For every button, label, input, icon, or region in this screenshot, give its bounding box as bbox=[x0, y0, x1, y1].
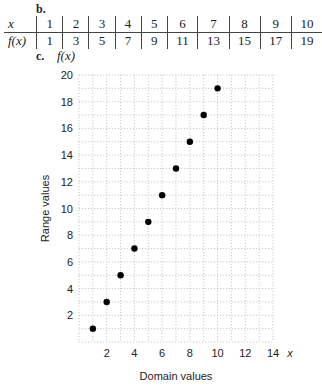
x-tick-label: 6 bbox=[159, 347, 165, 359]
y-tick-label: 4 bbox=[67, 283, 73, 295]
data-point bbox=[145, 219, 151, 225]
y-tick-label: 18 bbox=[61, 96, 73, 108]
x-tick-label: 10 bbox=[211, 347, 223, 359]
x-tick-label: 12 bbox=[239, 347, 251, 359]
y-tick-label: 12 bbox=[61, 176, 73, 188]
data-point bbox=[173, 165, 179, 171]
data-point bbox=[187, 139, 193, 145]
x-tick-label: 8 bbox=[187, 347, 193, 359]
scatter-chart: 24681012142468101214161820xDomain values… bbox=[0, 0, 322, 387]
y-tick-label: 20 bbox=[61, 69, 73, 81]
x-tick-label: 4 bbox=[131, 347, 137, 359]
y-tick-label: 8 bbox=[67, 229, 73, 241]
x-axis-title: Domain values bbox=[140, 370, 213, 382]
x-tick-label: 14 bbox=[267, 347, 279, 359]
data-point bbox=[214, 85, 220, 91]
x-axis-symbol: x bbox=[286, 347, 293, 359]
data-point bbox=[104, 299, 110, 305]
x-tick-label: 2 bbox=[104, 347, 110, 359]
y-tick-label: 10 bbox=[61, 203, 73, 215]
y-tick-label: 6 bbox=[67, 256, 73, 268]
data-point bbox=[131, 245, 137, 251]
data-point bbox=[159, 192, 165, 198]
data-point bbox=[117, 272, 123, 278]
data-point bbox=[90, 325, 96, 331]
data-point bbox=[201, 112, 207, 118]
y-tick-label: 14 bbox=[61, 149, 73, 161]
y-tick-label: 2 bbox=[67, 309, 73, 321]
y-axis-title: Range values bbox=[39, 174, 51, 242]
y-tick-label: 16 bbox=[61, 122, 73, 134]
